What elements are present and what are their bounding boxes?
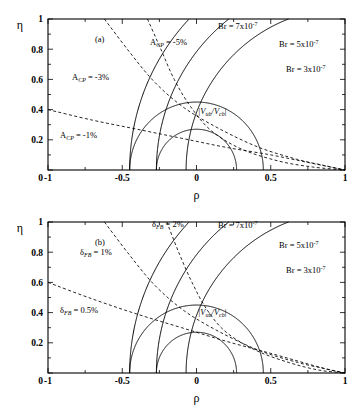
x-tick-label: -0.5 [115, 173, 130, 183]
plot-area-a: -1-0.500.510.20.40.60.810ρη(a)Br = 7x10-… [0, 0, 363, 202]
curve-br-7x10-7 [186, 222, 288, 373]
y-tick-label: 1 [38, 217, 43, 227]
dfb1-label: δFB = 1% [80, 247, 112, 258]
x-tick-label: -1 [44, 173, 52, 183]
plot-panel-a: -1-0.500.510.20.40.60.810ρη(a)Br = 7x10-… [0, 0, 363, 202]
figure-container: -1-0.500.510.20.40.60.810ρη(a)Br = 7x10-… [0, 0, 363, 405]
curve-delta-fb-0-5- [48, 282, 345, 373]
y-axis-label: η [17, 18, 23, 32]
panel-tag-a: (a) [95, 34, 105, 44]
acp1-label: ACP = -1% [60, 130, 97, 141]
br3-label: Br = 3x10-7 [286, 64, 326, 74]
curve--vub-vcb-lower [156, 332, 236, 373]
x-tick-label: -0.5 [115, 376, 130, 386]
y-tick-label: 0.4 [31, 105, 43, 115]
plot-area-b: -1-0.500.510.20.40.60.810ρη(b)Br = 7x10-… [0, 203, 363, 405]
origin-zero-label: 0 [38, 376, 43, 386]
panel-tag-b: (b) [95, 237, 105, 247]
curve-br-7x10-7 [186, 19, 288, 170]
y-tick-label: 0.8 [31, 45, 43, 55]
x-tick-label: 0 [194, 376, 199, 386]
y-tick-label: 0.6 [31, 75, 43, 85]
x-tick-label: 0.5 [265, 173, 277, 183]
x-tick-label: 1 [343, 376, 348, 386]
y-axis-label: η [17, 221, 23, 235]
x-axis-label: ρ [194, 188, 200, 202]
curve--vub-vcb-lower [156, 129, 236, 170]
acp5-label: ACP = -5% [150, 37, 187, 48]
y-tick-label: 0.6 [31, 278, 43, 288]
br7-label: Br = 7x10-7 [218, 220, 258, 230]
y-tick-label: 0.4 [31, 308, 43, 318]
x-axis-label: ρ [194, 391, 200, 405]
dfb2-label: δFB = 2% [152, 219, 184, 230]
vub-vcb-label: |Vub/Vcb| [198, 307, 227, 318]
x-tick-label: 0 [194, 173, 199, 183]
origin-zero-label: 0 [38, 173, 43, 183]
x-tick-label: 1 [343, 173, 348, 183]
acp3-label: ACP = -3% [72, 72, 109, 83]
curve-br-3x10-7 [130, 222, 189, 373]
br7-label: Br = 7x10-7 [218, 21, 258, 31]
y-tick-label: 0.8 [31, 248, 43, 258]
y-tick-label: 0.2 [31, 338, 43, 348]
y-tick-label: 0.2 [31, 135, 43, 145]
br5-label: Br = 5x10-7 [279, 39, 319, 49]
br5-label: Br = 5x10-7 [279, 240, 319, 250]
plot-panel-b: -1-0.500.510.20.40.60.810ρη(b)Br = 7x10-… [0, 203, 363, 405]
x-tick-label: -1 [44, 376, 52, 386]
br3-label: Br = 3x10-7 [286, 265, 326, 275]
x-tick-label: 0.5 [265, 376, 277, 386]
dfb05-label: δFB = 0.5% [60, 305, 98, 316]
y-tick-label: 1 [38, 14, 43, 24]
